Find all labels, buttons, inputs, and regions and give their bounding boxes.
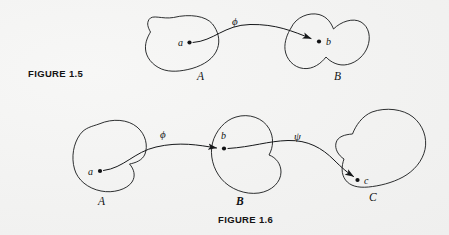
fig16-map-phi-arrow <box>104 144 217 170</box>
fig16-map-phi-label: ϕ <box>160 128 166 140</box>
fig16-set-c-blob <box>336 109 426 187</box>
fig16-map-psi-arrow <box>228 140 354 176</box>
fig16-elem-b-label: b <box>221 130 226 141</box>
fig16-set-b-label: B <box>235 195 244 207</box>
fig15-map-phi-arrow <box>193 24 311 42</box>
fig15-set-a-label: A <box>196 70 205 82</box>
fig15-map-phi-label: ϕ <box>232 15 238 27</box>
figure-page: FIGURE 1.5 FIGURE 1.6 A a B b ϕ A a B <box>0 0 449 235</box>
fig16-elem-c-label: c <box>364 175 369 186</box>
fig15-elem-a-label: a <box>178 37 183 48</box>
fig15-set-b-label: B <box>334 70 341 82</box>
fig16-point-b <box>222 146 226 150</box>
figures-svg: A a B b ϕ A a B b C c ϕ ψ <box>0 0 449 235</box>
fig16-map-psi-label: ψ <box>294 130 301 142</box>
fig15-point-a <box>187 40 191 44</box>
fig16-set-c-label: C <box>369 191 377 203</box>
fig16-set-a-label: A <box>97 195 106 207</box>
fig16-point-c <box>355 178 359 182</box>
fig15-point-b <box>317 39 321 43</box>
fig16-elem-a-label: a <box>88 166 93 177</box>
fig15-elem-b-label: b <box>326 36 331 47</box>
fig16-point-a <box>98 169 102 173</box>
fig16-set-b-blob <box>211 116 281 194</box>
